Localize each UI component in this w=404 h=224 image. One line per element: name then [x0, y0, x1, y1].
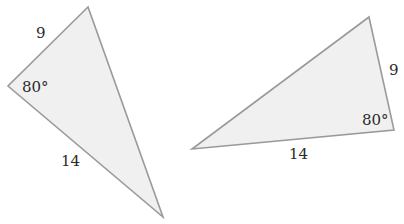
triangle-right-side-short-label: 9	[389, 61, 399, 79]
triangle-right-angle-label: 80°	[362, 111, 389, 129]
triangle-left-shape	[8, 7, 163, 217]
triangle-right-shape	[192, 17, 394, 149]
triangle-left-side-long-label: 14	[61, 152, 80, 170]
triangle-right-side-long-label: 14	[289, 145, 308, 163]
triangle-left: 9 80° 14	[8, 7, 163, 217]
diagram-canvas: 9 80° 14 9 80° 14	[0, 0, 404, 224]
triangle-left-angle-label: 80°	[22, 78, 49, 96]
triangle-right: 9 80° 14	[192, 17, 399, 163]
triangle-left-side-short-label: 9	[36, 24, 46, 42]
